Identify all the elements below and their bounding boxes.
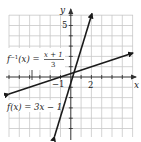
f-label: f(x) = 3x − 1	[6, 100, 62, 112]
axes	[6, 9, 136, 140]
y-axis-label: y	[59, 5, 66, 15]
x-axis-label: x	[134, 80, 139, 90]
f-label-text: f(x) = 3x − 1	[6, 102, 62, 112]
neg-one-tick: −1	[52, 79, 65, 89]
f-inverse-denominator: 3	[51, 61, 55, 69]
f-inverse-label: f−1(x) = x + 1 3	[6, 48, 65, 70]
x-tick-two: 2	[88, 80, 93, 90]
function-inverse-graph: y x 5 2 −1 f−1(x) = x + 1 3 f(x) = 3x − …	[0, 0, 141, 142]
y-tick-five: 5	[62, 20, 67, 30]
f-inverse-numerator: x + 1	[44, 51, 63, 59]
graph-canvas: y x 5 2 −1 f−1(x) = x + 1 3 f(x) = 3x − …	[0, 0, 141, 142]
